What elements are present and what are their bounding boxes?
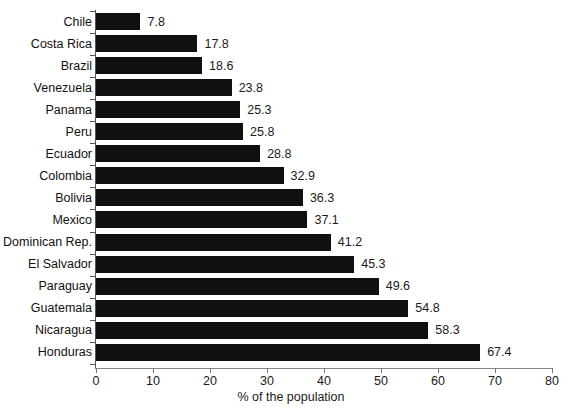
x-axis-tick	[552, 368, 553, 373]
category-axis-labels: ChileCosta RicaBrazilVenezuelaPanamaPeru…	[0, 0, 92, 420]
y-axis-tick	[90, 276, 96, 277]
bar	[96, 123, 243, 140]
y-axis-tick	[90, 298, 96, 299]
bar-value-label: 67.4	[487, 346, 511, 359]
bar-value-label: 54.8	[415, 302, 439, 315]
category-label: Panama	[2, 103, 92, 116]
bar	[96, 167, 284, 184]
bar-row: 58.3	[96, 322, 552, 339]
bar-row: 36.3	[96, 189, 552, 206]
bar-value-label: 28.8	[267, 148, 291, 161]
bar-row: 32.9	[96, 167, 552, 184]
category-label: Dominican Rep.	[2, 236, 92, 249]
x-axis-tick-label: 60	[431, 375, 445, 388]
category-label: Colombia	[2, 170, 92, 183]
x-axis-tick-label: 20	[203, 375, 217, 388]
category-label: Honduras	[2, 346, 92, 359]
bar	[96, 145, 260, 162]
y-axis-tick	[90, 11, 96, 12]
bar-row: 18.6	[96, 57, 552, 74]
category-label: Mexico	[2, 214, 92, 227]
bar-row: 25.8	[96, 123, 552, 140]
bar	[96, 344, 480, 361]
x-axis-tick-label: 80	[545, 375, 559, 388]
bar	[96, 35, 197, 52]
bar-value-label: 18.6	[209, 59, 233, 72]
category-label: Bolivia	[2, 192, 92, 205]
x-axis-tick	[324, 368, 325, 373]
category-label: Costa Rica	[2, 37, 92, 50]
bar	[96, 300, 408, 317]
x-axis-tick-label: 10	[146, 375, 160, 388]
x-axis-tick	[96, 368, 97, 373]
category-label: Nicaragua	[2, 324, 92, 337]
bar-row: 41.2	[96, 234, 552, 251]
bar-value-label: 17.8	[204, 37, 228, 50]
y-axis-tick	[90, 364, 96, 365]
bar	[96, 278, 379, 295]
bar-chart: ChileCosta RicaBrazilVenezuelaPanamaPeru…	[0, 0, 572, 420]
bar	[96, 57, 202, 74]
y-axis-tick	[90, 254, 96, 255]
x-axis-tick	[495, 368, 496, 373]
bar	[96, 322, 428, 339]
y-axis-tick	[90, 187, 96, 188]
bar-value-label: 58.3	[435, 324, 459, 337]
bar-row: 28.8	[96, 145, 552, 162]
bar-value-label: 25.8	[250, 126, 274, 139]
bar-row: 7.8	[96, 13, 552, 30]
bar	[96, 211, 307, 228]
plot-area: 7.817.818.623.825.325.828.832.936.337.14…	[96, 10, 552, 368]
x-axis-tick	[438, 368, 439, 373]
category-label: Brazil	[2, 59, 92, 72]
bar-value-label: 25.3	[247, 103, 271, 116]
y-axis-tick	[90, 77, 96, 78]
category-label: Venezuela	[2, 81, 92, 94]
bar-value-label: 37.1	[314, 214, 338, 227]
x-axis-tick	[267, 368, 268, 373]
bar-value-label: 7.8	[147, 15, 164, 28]
y-axis-tick	[90, 143, 96, 144]
y-axis-tick	[90, 342, 96, 343]
bar-value-label: 32.9	[291, 170, 315, 183]
y-axis-tick	[90, 121, 96, 122]
y-axis-tick	[90, 99, 96, 100]
x-axis-tick	[381, 368, 382, 373]
bar	[96, 256, 354, 273]
y-axis-tick	[90, 232, 96, 233]
x-axis-tick	[153, 368, 154, 373]
x-axis-tick	[210, 368, 211, 373]
bar-value-label: 45.3	[361, 258, 385, 271]
category-label: Ecuador	[2, 148, 92, 161]
bar-value-label: 41.2	[338, 236, 362, 249]
category-label: Peru	[2, 126, 92, 139]
y-axis-tick	[90, 55, 96, 56]
y-axis-tick	[90, 209, 96, 210]
bar	[96, 79, 232, 96]
x-axis-tick-label: 50	[374, 375, 388, 388]
x-axis-tick-label: 70	[488, 375, 502, 388]
category-label: Paraguay	[2, 280, 92, 293]
bar-value-label: 49.6	[386, 280, 410, 293]
y-axis-tick	[90, 33, 96, 34]
bar	[96, 234, 331, 251]
bar-value-label: 23.8	[239, 81, 263, 94]
bar-row: 25.3	[96, 101, 552, 118]
category-label: El Salvador	[2, 258, 92, 271]
x-axis-tick-label: 40	[317, 375, 331, 388]
bar-row: 67.4	[96, 344, 552, 361]
bar-row: 23.8	[96, 79, 552, 96]
y-axis-tick	[90, 165, 96, 166]
bar-row: 45.3	[96, 256, 552, 273]
bar-row: 37.1	[96, 211, 552, 228]
y-axis-tick	[90, 320, 96, 321]
bar-row: 49.6	[96, 278, 552, 295]
bar	[96, 101, 240, 118]
bar	[96, 13, 140, 30]
category-label: Chile	[2, 15, 92, 28]
x-axis-title: % of the population	[0, 391, 572, 404]
category-label: Guatemala	[2, 302, 92, 315]
bar-row: 54.8	[96, 300, 552, 317]
x-axis-title-text: % of the population	[237, 391, 344, 404]
x-axis-tick-label: 30	[260, 375, 274, 388]
